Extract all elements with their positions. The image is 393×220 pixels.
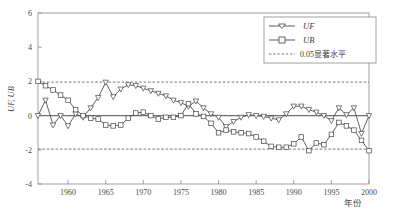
- square-icon: [36, 79, 41, 84]
- x-tick-label: 1995: [323, 188, 339, 197]
- square-icon: [126, 116, 131, 121]
- square-icon: [186, 101, 191, 106]
- x-tick-label: 1980: [211, 188, 227, 197]
- x-tick-label: 1975: [173, 188, 189, 197]
- square-icon: [352, 128, 357, 133]
- square-icon: [103, 123, 108, 128]
- square-icon: [194, 112, 199, 117]
- square-icon: [279, 37, 285, 43]
- square-icon: [111, 124, 116, 129]
- square-icon: [88, 116, 93, 121]
- x-axis-title: 年份: [344, 198, 362, 208]
- square-icon: [66, 98, 71, 103]
- square-icon: [171, 115, 176, 120]
- y-tick-label: 6: [28, 9, 32, 18]
- square-icon: [43, 83, 48, 88]
- square-icon: [216, 130, 221, 135]
- square-icon: [201, 114, 206, 119]
- square-icon: [156, 117, 161, 122]
- y-axis-title: UF, UB: [6, 86, 16, 112]
- mann-kendall-chart: 6420-2-4 1960196519701975198019851990199…: [0, 0, 393, 220]
- square-icon: [58, 93, 63, 98]
- square-icon: [81, 113, 86, 118]
- square-icon: [276, 145, 281, 150]
- square-icon: [96, 117, 101, 122]
- square-icon: [299, 135, 304, 140]
- y-tick-label: 4: [28, 43, 32, 52]
- square-icon: [322, 142, 327, 147]
- square-icon: [367, 148, 372, 153]
- square-icon: [231, 130, 236, 135]
- square-icon: [246, 131, 251, 136]
- square-icon: [329, 132, 334, 137]
- square-icon: [149, 113, 154, 118]
- y-tick-label: -4: [25, 180, 32, 189]
- square-icon: [209, 121, 214, 126]
- x-tick-label: 1990: [286, 188, 302, 197]
- x-tick-label: 1970: [135, 188, 151, 197]
- x-tick-label: 1960: [60, 188, 76, 197]
- y-tick-label: -2: [25, 146, 32, 155]
- square-icon: [239, 130, 244, 135]
- square-icon: [164, 115, 169, 120]
- legend-label-uf: UF: [303, 21, 315, 31]
- square-icon: [261, 139, 266, 144]
- square-icon: [359, 138, 364, 143]
- square-icon: [51, 88, 56, 93]
- square-icon: [269, 144, 274, 149]
- x-tick-label: 1965: [98, 188, 114, 197]
- square-icon: [314, 141, 319, 146]
- legend-label-ub: UB: [303, 35, 314, 45]
- square-icon: [118, 123, 123, 128]
- square-icon: [73, 107, 78, 112]
- square-icon: [179, 113, 184, 118]
- square-icon: [291, 142, 296, 147]
- square-icon: [344, 124, 349, 129]
- square-icon: [307, 148, 312, 153]
- chart-figure: 6420-2-4 1960196519701975198019851990199…: [0, 0, 393, 220]
- square-icon: [224, 128, 229, 133]
- chart-legend[interactable]: UF UB 0.05显著水平: [264, 17, 376, 63]
- y-tick-label: 2: [28, 77, 32, 86]
- legend-label-significance: 0.05显著水平: [300, 49, 346, 59]
- square-icon: [337, 120, 342, 125]
- square-icon: [134, 111, 139, 116]
- square-icon: [254, 135, 259, 140]
- square-icon: [141, 110, 146, 115]
- x-tick-label: 1985: [248, 188, 264, 197]
- x-tick-label: 2000: [361, 188, 377, 197]
- square-icon: [284, 145, 289, 150]
- y-tick-label: 0: [28, 112, 32, 121]
